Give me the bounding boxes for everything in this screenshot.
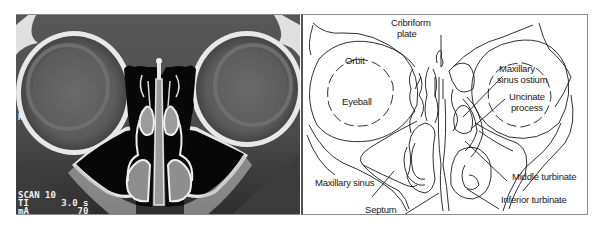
ct-scan-image: R SCAN 10 TI 3.0 s mA 70 bbox=[16, 14, 300, 215]
septum bbox=[154, 79, 164, 205]
label-orbit: Orbit bbox=[345, 56, 365, 66]
right-eyeball bbox=[21, 36, 127, 150]
scan-info-line-3: mA 70 bbox=[18, 207, 88, 215]
anatomy-diagram: Orbit Eyeball Cribriform plate Maxillary… bbox=[301, 14, 588, 215]
septum-outline bbox=[438, 99, 443, 211]
label-cribriform-plate-1: Cribriform bbox=[391, 18, 431, 28]
label-middle-turbinate: Middle turbinate bbox=[512, 172, 576, 182]
right-middle-turbinate bbox=[140, 107, 154, 136]
left-orbit-outline bbox=[472, 40, 569, 138]
label-maxillary-sinus-ostium-2: sinus ostium bbox=[497, 75, 547, 85]
label-inferior-turbinate: Inferior turbinate bbox=[501, 195, 567, 205]
label-maxillary-sinus: Maxillary sinus bbox=[315, 178, 374, 188]
leader-septum bbox=[399, 193, 439, 214]
left-middle-turbinate bbox=[164, 107, 178, 136]
label-eyeball: Eyeball bbox=[342, 97, 372, 107]
orientation-marker: R bbox=[18, 113, 23, 122]
label-cribriform-plate-2: plate bbox=[397, 29, 417, 39]
label-maxillary-sinus-ostium-1: Maxillary bbox=[499, 64, 535, 74]
label-uncinate-process-1: Uncinate bbox=[509, 92, 545, 102]
label-uncinate-process-2: process bbox=[511, 103, 543, 113]
right-eyeball-outline bbox=[328, 59, 394, 126]
label-septum: Septum bbox=[365, 205, 397, 215]
ct-scan-graphic bbox=[16, 15, 300, 215]
